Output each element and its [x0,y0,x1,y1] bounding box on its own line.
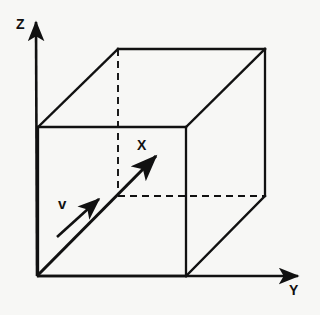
x-vector-arrow [37,156,156,276]
z-axis-label: Z [16,17,25,31]
y-axis-label: Y [289,283,298,297]
cube-edge-depth-top-left [38,49,118,127]
x-vector-label: X [137,138,146,152]
z-axis-line [36,22,37,276]
diagram-canvas [0,0,320,315]
cube-edge-depth-bottom-right [186,196,265,276]
coordinate-cube-diagram: Z Y X v [0,0,320,315]
cube-edge-depth-top-right [186,49,265,127]
v-vector-label: v [58,196,66,211]
x-vector-line [37,156,156,276]
